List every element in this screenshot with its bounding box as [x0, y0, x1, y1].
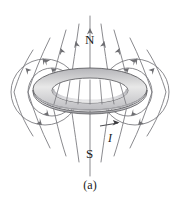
arrowhead-left-1 [74, 41, 80, 48]
current-label: I [108, 132, 112, 144]
field-line-diagram [0, 0, 180, 201]
arrowhead-left-4 [26, 68, 32, 75]
arrowhead-right-4 [149, 68, 155, 75]
current-direction-arrow [100, 120, 120, 126]
arrowhead-loop-right-outer-top [130, 59, 136, 66]
arrowhead-right-2 [115, 48, 120, 55]
arrowhead-right-1 [100, 41, 106, 48]
arrowhead-left-2 [60, 48, 65, 55]
north-pole-label: N [85, 33, 94, 46]
south-pole-label: S [86, 147, 93, 160]
figure-caption: (a) [0, 179, 180, 191]
arrowhead-loop-left-outer-top [44, 59, 50, 66]
magnetic-field-figure: N S I (a) [0, 0, 180, 201]
